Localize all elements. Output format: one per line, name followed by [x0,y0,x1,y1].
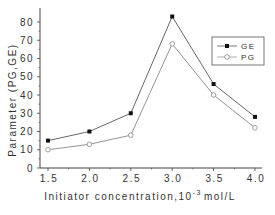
data-point [129,133,134,138]
data-point [46,147,51,152]
y-tick-label: 0 [27,163,34,174]
data-point [170,42,175,47]
y-tick-label: 60 [20,53,34,64]
y-tick-label: 40 [20,90,34,101]
series-line-ge [48,17,255,141]
x-axis-title: Initiator concentration,10-3mol/L [44,189,236,202]
data-point [211,93,216,98]
x-tick-label: 1.5 [40,173,58,184]
y-tick-label: 50 [20,71,34,82]
y-tick-label: 20 [20,126,34,137]
data-point [87,142,92,147]
data-series [46,15,258,153]
x-tick-label: 4.0 [247,173,265,184]
legend-label-ge: GE [241,42,256,51]
axes [40,8,262,168]
x-tick-label: 3.5 [205,173,223,184]
x-tick-label: 3.0 [164,173,182,184]
x-tick-label: 2.0 [81,173,99,184]
legend: GE PG [212,37,264,65]
data-point [46,139,50,143]
legend-box [212,37,264,65]
data-point [212,82,216,86]
line-chart: 010203040506070801.52.02.53.03.54.0 Para… [0,0,275,215]
y-tick-label: 70 [20,35,34,46]
data-point [87,130,91,134]
circle-marker-icon [225,55,230,60]
data-point [170,15,174,19]
data-point [253,126,258,131]
y-tick-label: 30 [20,108,34,119]
x-tick-label: 2.5 [123,173,141,184]
square-marker-icon [225,44,229,48]
data-point [129,111,133,115]
legend-label-pg: PG [241,53,256,62]
y-tick-label: 10 [20,144,34,155]
y-axis-title: Parameter (PG,GE) [7,43,18,156]
data-point [253,115,257,119]
y-tick-label: 80 [20,17,34,28]
